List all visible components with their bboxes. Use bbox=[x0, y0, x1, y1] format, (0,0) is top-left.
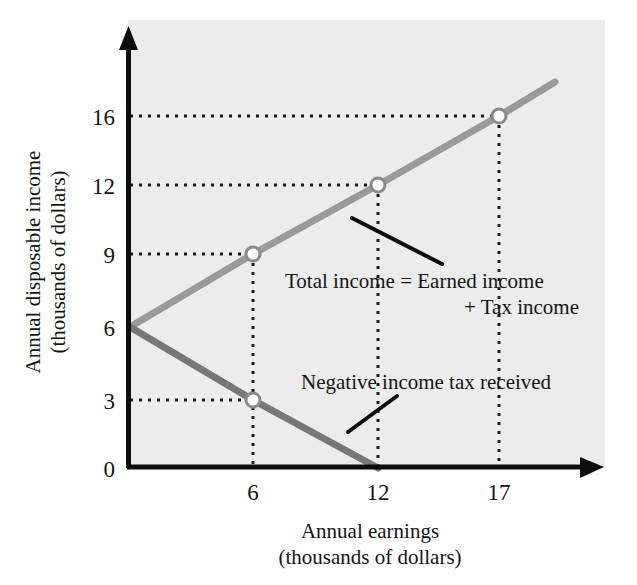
y-tick-label-6: 6 bbox=[104, 316, 116, 341]
y-tick-label-12: 12 bbox=[92, 174, 115, 199]
x-axis-title-line1: Annual earnings bbox=[301, 519, 439, 543]
y-axis-title-line2: (thousands of dollars) bbox=[46, 170, 70, 353]
y-tick-labels: 16 12 9 6 3 0 bbox=[92, 105, 115, 482]
chart-svg: 16 12 9 6 3 0 6 12 17 Annual disposable … bbox=[0, 0, 637, 585]
x-tick-label-17: 17 bbox=[488, 480, 511, 505]
x-axis-title-line2: (thousands of dollars) bbox=[278, 545, 461, 569]
x-tick-labels: 6 12 17 bbox=[247, 480, 510, 505]
negative-income-tax-chart-figure: 16 12 9 6 3 0 6 12 17 Annual disposable … bbox=[0, 0, 637, 585]
y-tick-label-0: 0 bbox=[104, 457, 116, 482]
annotation-negative-income-tax-line1: Negative income tax received bbox=[301, 370, 552, 394]
marker-total-income-17-16 bbox=[492, 109, 506, 123]
marker-negative-tax-6-3 bbox=[246, 393, 260, 407]
x-tick-label-12: 12 bbox=[367, 480, 390, 505]
y-tick-label-16: 16 bbox=[92, 105, 115, 130]
annotation-total-income-line1: Total income = Earned income bbox=[285, 269, 544, 293]
y-axis-title: Annual disposable income (thousands of d… bbox=[21, 151, 70, 374]
y-axis-title-line1: Annual disposable income bbox=[21, 151, 45, 374]
x-axis-title: Annual earnings (thousands of dollars) bbox=[278, 519, 461, 569]
y-tick-label-9: 9 bbox=[104, 243, 116, 268]
y-tick-label-3: 3 bbox=[104, 389, 116, 414]
x-tick-label-6: 6 bbox=[247, 480, 259, 505]
annotation-total-income-line2: + Tax income bbox=[464, 295, 579, 319]
plot-background bbox=[128, 20, 605, 468]
marker-total-income-6-9 bbox=[246, 247, 260, 261]
marker-total-income-12-12 bbox=[371, 178, 385, 192]
